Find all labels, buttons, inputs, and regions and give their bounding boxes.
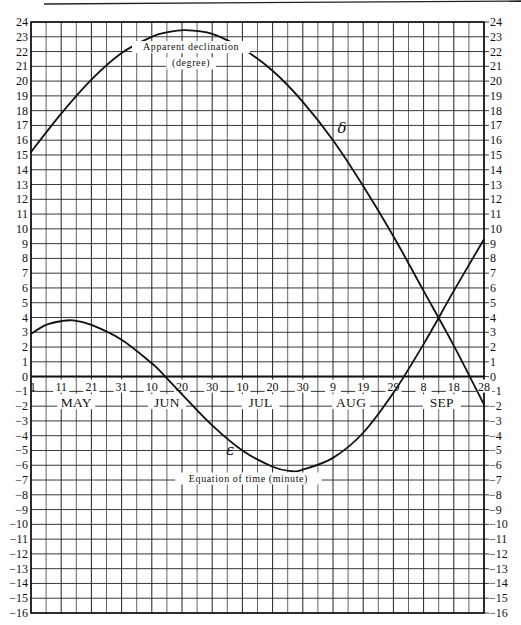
right-tick-label: 11 [490,207,502,221]
x-tick-label: 28 [478,380,490,394]
x-tick-label: 1 [30,380,36,394]
right-tick-label: 5 [490,296,496,310]
right-tick-label: 21 [490,59,502,73]
left-tick-label: 0 [22,370,28,384]
right-tick-label: 7 [490,266,496,280]
right-tick-label: −13 [489,562,508,576]
right-tick-label: 23 [490,30,502,44]
delta-symbol-label: δ [338,119,347,137]
right-tick-label: 8 [490,251,496,265]
left-tick-label: −6 [15,458,28,472]
left-tick-label: 9 [22,237,28,251]
annotation-label: Apparent declination [143,41,239,52]
left-tick-label: 7 [22,266,28,280]
right-tick-label: −12 [489,547,508,561]
right-tick-label: 14 [490,163,502,177]
right-tick-label: −10 [489,517,508,531]
left-tick-label: 18 [16,104,28,118]
left-tick-label: 5 [22,296,28,310]
right-tick-label: −7 [489,473,502,487]
x-tick-label: 18 [448,380,460,394]
left-tick-label: −10 [9,517,28,531]
month-label: AUG [336,395,366,410]
left-tick-label: −2 [15,399,28,413]
month-label: JUN [154,395,180,410]
epsilon-symbol-label: ε [226,441,234,459]
right-tick-label: 6 [490,281,496,295]
top-rule [44,1,521,4]
left-tick-label: 17 [16,118,28,132]
right-tick-label: 9 [490,237,496,251]
right-tick-label: 13 [490,178,502,192]
month-label: MAY [61,395,92,410]
left-tick-label: 21 [16,59,28,73]
x-tick-label: 10 [146,380,158,394]
x-tick-label: 31 [116,380,128,394]
month-label: JUL [248,395,272,410]
right-tick-label: −15 [489,591,508,605]
right-tick-label: 19 [490,89,502,103]
right-tick-label: 3 [490,325,496,339]
left-tick-label: 23 [16,30,28,44]
left-tick-label: −7 [15,473,28,487]
left-tick-label: 10 [16,222,28,236]
right-tick-label: 17 [490,118,502,132]
right-tick-label: −16 [489,606,508,620]
x-tick-label: 30 [206,380,218,394]
right-tick-label: 10 [490,222,502,236]
right-tick-label: −11 [489,532,507,546]
horizontal-grid-lines [31,22,484,613]
annotations: Apparent declination(degree)δεEquation o… [132,41,347,484]
right-tick-label: −9 [489,503,502,517]
left-tick-label: 13 [16,178,28,192]
left-tick-label: −15 [9,591,28,605]
left-tick-label: −1 [15,384,28,398]
annotation-label: Equation of time (minute) [189,473,308,485]
left-tick-label: −3 [15,414,28,428]
left-tick-label: −14 [9,576,28,590]
x-tick-label: 19 [357,380,369,394]
left-tick-label: 20 [16,74,28,88]
right-tick-label: −8 [489,488,502,502]
left-tick-label: −12 [9,547,28,561]
x-tick-label: 21 [85,380,97,394]
left-tick-label: 4 [22,311,28,325]
right-tick-label: −14 [489,576,508,590]
left-tick-label: 12 [16,192,28,206]
left-tick-label: 11 [16,207,28,221]
left-tick-label: 19 [16,89,28,103]
month-labels: MAYJUNJULAUGSEP [57,394,460,410]
x-tick-label: 11 [55,380,67,394]
right-tick-label: 20 [490,74,502,88]
right-tick-label: 12 [490,192,502,206]
right-tick-label: −2 [489,399,502,413]
right-tick-label: −3 [489,414,502,428]
right-tick-label: 18 [490,104,502,118]
left-axis-ticks: 2423222120191817161514131211109876543210… [9,15,28,620]
x-tick-label: 20 [267,380,279,394]
x-tick-label: 20 [176,380,188,394]
right-tick-label: −4 [489,429,502,443]
left-tick-label: 24 [16,15,28,29]
right-tick-label: 4 [490,311,496,325]
annotation-label: (degree) [172,57,210,69]
left-tick-label: −5 [15,443,28,457]
right-tick-label: 22 [490,45,502,59]
chart: 2423222120191817161514131211109876543210… [0,0,521,625]
left-tick-label: 3 [22,325,28,339]
left-tick-label: 2 [22,340,28,354]
left-tick-label: 6 [22,281,28,295]
x-tick-label: 10 [236,380,248,394]
left-tick-label: −11 [10,532,28,546]
month-label: SEP [430,395,454,410]
left-tick-label: −9 [15,503,28,517]
left-tick-label: 22 [16,45,28,59]
left-tick-label: −16 [9,606,28,620]
right-tick-label: 16 [490,133,502,147]
left-tick-label: −4 [15,429,28,443]
left-tick-label: −13 [9,562,28,576]
left-tick-label: 8 [22,251,28,265]
x-tick-label: 9 [330,380,336,394]
right-tick-label: 24 [490,15,502,29]
left-tick-label: 1 [22,355,28,369]
